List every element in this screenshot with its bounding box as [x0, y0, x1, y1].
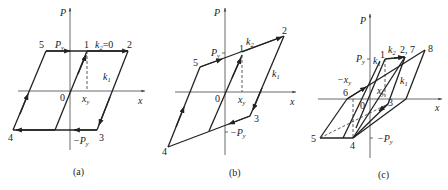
- point-1: 1: [380, 49, 385, 60]
- arrow-initial: [78, 55, 86, 74]
- arrow-initial: [232, 58, 241, 78]
- panel-b: P x 5 Py 1 k2 2 k1 0 xy 3 −Py 4 (b): [162, 7, 296, 179]
- caption-b: (b): [229, 167, 241, 179]
- loop-left: [13, 51, 46, 130]
- neg-py-label: −Py: [73, 135, 89, 147]
- y-axis-label: P: [213, 7, 220, 18]
- segment-4-7: [353, 57, 405, 138]
- k1-label: k1: [272, 68, 280, 80]
- x-axis-label: x: [434, 102, 440, 113]
- py-label: Py: [54, 39, 64, 51]
- point-5: 5: [39, 39, 44, 50]
- point-4: 4: [8, 132, 13, 143]
- segment-5-6: [320, 99, 347, 138]
- k2-label: k2: [246, 36, 254, 48]
- caption-a: (a): [73, 166, 84, 178]
- k2-label: k2: [388, 44, 396, 56]
- hysteresis-figure: P x 5 Py 1 k2=0 2 k1 0 xy 3 4 −Py (a) P …: [0, 0, 448, 190]
- neg-py-label: −Py: [377, 133, 393, 145]
- neg-xy-label: −xy: [337, 74, 351, 86]
- point-3: 3: [99, 132, 104, 143]
- arrow-top-1: [200, 59, 222, 67]
- caption-c: (c): [378, 169, 389, 181]
- point-4: 4: [350, 140, 355, 151]
- arrow-left: [176, 107, 184, 127]
- panel-a: P x 5 Py 1 k2=0 2 k1 0 xy 3 4 −Py (a): [8, 7, 145, 178]
- y-axis-label: P: [59, 7, 66, 18]
- neg-py-label: −Py: [230, 127, 246, 139]
- point-2-7: 2, 7: [400, 44, 415, 55]
- py-label: Py: [355, 53, 365, 65]
- point-6: 6: [343, 87, 348, 98]
- x-axis-label: x: [289, 96, 295, 107]
- k1-label: k1: [103, 71, 111, 83]
- panel-c: P x Py k1 1 k2 2, 7 8 −xy k1 xy 6 0: [311, 14, 442, 181]
- k2-label: k2=0: [95, 39, 113, 51]
- x-axis-label: x: [137, 95, 143, 106]
- point-2: 2: [127, 39, 132, 50]
- point-8: 8: [428, 43, 433, 54]
- xy-label: xy: [376, 85, 384, 97]
- py-label: Py: [210, 47, 220, 59]
- arrow-left: [20, 94, 28, 114]
- xy-label: xy: [237, 94, 245, 106]
- point-1: 1: [84, 39, 89, 50]
- xy-label: xy: [81, 93, 89, 105]
- point-2: 2: [282, 25, 287, 36]
- y-axis-label: P: [359, 15, 366, 26]
- arrow-right: [99, 97, 110, 125]
- arrow-right: [253, 88, 262, 110]
- k1-label: k1: [400, 75, 408, 87]
- arrow-bottom: [229, 116, 250, 124]
- point-3: 3: [254, 113, 259, 124]
- origin-label: 0: [60, 92, 65, 103]
- point-1: 1: [239, 43, 244, 54]
- origin-label: 0: [215, 93, 220, 104]
- point-3: 3: [388, 97, 393, 108]
- point-5: 5: [193, 57, 198, 68]
- segment-8-down: [406, 50, 425, 99]
- origin-label: 0: [360, 100, 365, 111]
- point-5: 5: [311, 133, 316, 144]
- point-4: 4: [162, 146, 167, 157]
